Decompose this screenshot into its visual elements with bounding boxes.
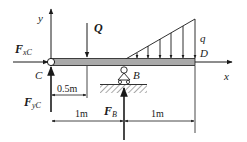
Q-label: Q — [94, 21, 103, 35]
beam — [51, 59, 195, 66]
FyC-main: F — [23, 95, 32, 109]
x-axis-label: x — [223, 70, 229, 82]
distributed-load: q — [124, 19, 206, 60]
dim-0.5m-label: 0.5m — [57, 83, 78, 94]
FxC-main: F — [14, 42, 23, 56]
force-FxC: FxC — [13, 42, 48, 62]
force-Q: Q — [87, 21, 103, 57]
dim-CB-label: 1m — [75, 108, 88, 119]
dim-BD-label: 1m — [151, 108, 164, 119]
svg-text:FyC: FyC — [23, 95, 42, 110]
q-label: q — [200, 32, 206, 44]
y-axis-label: y — [37, 12, 43, 24]
dimension-0.5m: 0.5m — [52, 83, 86, 95]
D-label: D — [199, 47, 208, 59]
FxC-sub: xC — [22, 48, 33, 57]
x-axis: x — [195, 62, 232, 82]
pin-C — [47, 58, 54, 65]
B-label: B — [133, 69, 140, 81]
FyC-sub: yC — [31, 101, 42, 110]
dimension-BD: 1m — [125, 108, 194, 121]
FB-sub: B — [112, 110, 117, 119]
svg-text:FB: FB — [103, 104, 117, 119]
beam-diagram: y x q Q FxC C FyC — [0, 0, 247, 142]
C-label: C — [35, 69, 43, 81]
force-FB: FB — [103, 88, 124, 140]
svg-text:FxC: FxC — [14, 42, 33, 57]
y-axis: y — [37, 9, 51, 62]
FB-main: F — [103, 104, 112, 118]
